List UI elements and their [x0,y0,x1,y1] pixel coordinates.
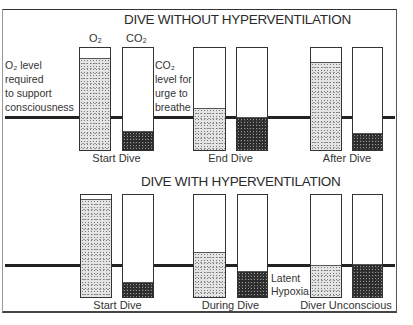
o2-bar-start-dive [79,47,111,151]
stage-label: Start Dive [79,152,154,164]
stage-label: Diver Unconscious [298,299,394,311]
co2-bar-start-dive [122,194,154,298]
co2-fill [123,282,153,297]
o2-bar-after-dive [310,47,342,151]
o2-column-header: O₂ [89,32,102,44]
o2-threshold-note: O₂ level required to support consciousne… [5,58,74,114]
stage-label: Start Dive [80,299,155,311]
o2-bar-end-dive [193,47,226,151]
co2-bar-start-dive [122,47,154,151]
co2-bar-end-dive [236,47,268,151]
co2-column-header: CO₂ [126,32,147,44]
o2-fill [311,62,341,150]
co2-bar-diver-unconscious [352,194,383,298]
latent-hypoxia-note: Latent Hypoxia [271,272,309,298]
o2-fill [81,199,111,297]
o2-bar-start-dive [80,194,112,298]
co2-fill [123,131,153,150]
co2-bar-after-dive [352,47,383,151]
co2-threshold-note: CO₂ level for urge to breathe [155,58,192,114]
stage-label: End Dive [193,152,268,164]
o2-fill [80,58,110,150]
co2-fill [238,271,267,298]
stage-label: After Dive [308,152,386,164]
panel-title: DIVE WITH HYPERVENTILATION [141,174,340,189]
co2-fill [237,117,267,150]
o2-fill [194,108,225,150]
o2-fill [311,265,341,297]
co2-bar-during-dive [237,194,268,298]
co2-fill [353,133,382,150]
o2-fill [194,252,225,297]
co2-fill [353,264,382,297]
o2-bar-during-dive [193,194,226,298]
stage-label: During Dive [193,299,268,311]
o2-bar-diver-unconscious [310,194,342,298]
panel-title: DIVE WITHOUT HYPERVENTILATION [124,12,351,27]
